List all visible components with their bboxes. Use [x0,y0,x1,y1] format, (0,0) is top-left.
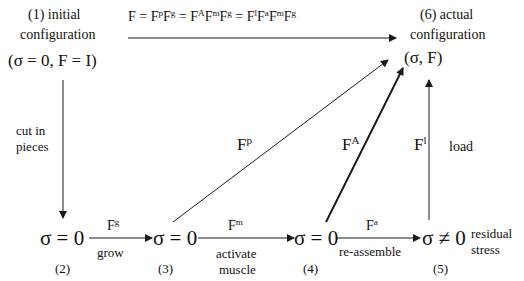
eq-sup: m [212,8,219,18]
edge-fa-symbol: FA [342,136,359,153]
node6-state: (σ, F) [404,49,442,66]
node1-state: (σ = 0, F = I) [8,52,97,69]
edge-cut-label-2: pieces [16,140,48,153]
eq-part: F [269,9,277,24]
node4-num: (4) [303,262,318,275]
edge-activate-symbol: Fm [228,219,243,233]
node2-state: σ = 0 [40,228,84,249]
edge-fp-symbol: Fp [237,136,252,153]
eq-part: F = F [128,9,158,24]
arrow-fa-4-to-6 [326,68,403,222]
node3-num: (3) [158,262,173,275]
edge-activate-desc-2: muscle [219,263,256,276]
node6-title: (6) actual [420,8,473,22]
edge-symbol: F [107,218,115,233]
node3-state: σ = 0 [153,228,197,249]
edge-sup: A [351,134,359,146]
eq-sup: A [198,8,205,18]
node1-title: (1) initial [28,8,81,22]
edge-reassemble-symbol: Fa [366,219,378,233]
node2-num: (2) [55,262,70,275]
edge-sup: g [115,217,120,227]
eq-part: F [257,9,265,24]
node5-note-2: stress [471,243,500,256]
node5-num: (5) [433,262,448,275]
edge-load-desc: load [449,140,473,154]
edge-symbol: F [228,218,236,233]
eq-part: F [163,9,171,24]
node1-desc: configuration [20,28,95,42]
node5-state: σ ≠ 0 [422,228,466,249]
edge-sup: a [374,217,378,227]
edge-symbol: F [366,218,374,233]
eq-part: = F [232,9,255,24]
node4-state: σ = 0 [294,228,338,249]
edge-cut-label-1: cut in [16,124,45,137]
edge-load-symbol: Fl [414,136,427,153]
edge-sup: m [236,217,243,227]
node5-note-1: residual [471,227,512,240]
eq-sup: m [277,8,284,18]
eq-part: F [284,9,292,24]
eq-part: = F [175,9,198,24]
eq-sup: g [292,8,297,18]
edge-grow-desc: grow [97,246,124,259]
edge-sup: p [246,134,252,146]
edge-sup: l [423,134,426,146]
node6-desc: configuration [410,28,485,42]
edge-reassemble-desc: re-assemble [339,245,401,258]
top-equation: F = FpFg = FAFmFg = FlFaFmFg [128,10,296,24]
edge-activate-desc-1: activate [216,247,256,260]
edge-grow-symbol: Fg [107,219,119,233]
